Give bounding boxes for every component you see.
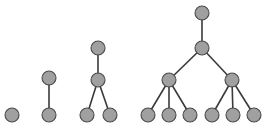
tree-1-nodes <box>5 108 19 122</box>
tree-node <box>42 108 56 122</box>
tree-3-nodes <box>80 41 117 122</box>
tree-node-circle <box>247 108 261 122</box>
tree-node <box>42 71 56 85</box>
tree-node <box>183 108 197 122</box>
tree-node <box>91 73 105 87</box>
tree-node-circle <box>162 73 176 87</box>
tree-node-circle <box>226 108 240 122</box>
tree-node <box>103 108 117 122</box>
tree-node-circle <box>5 108 19 122</box>
tree-4-nodes <box>141 6 261 122</box>
tree-node-circle <box>91 41 105 55</box>
tree-node <box>5 108 19 122</box>
tree-node-circle <box>141 108 155 122</box>
tree-node-circle <box>225 73 239 87</box>
tree-3 <box>80 41 117 122</box>
tree-node <box>162 108 176 122</box>
tree-node-circle <box>42 71 56 85</box>
tree-node-circle <box>162 108 176 122</box>
tree-node <box>91 41 105 55</box>
tree-diagram-figure <box>0 0 265 131</box>
tree-node-circle <box>205 108 219 122</box>
tree-node-circle <box>195 6 209 20</box>
tree-node <box>195 6 209 20</box>
tree-4 <box>141 6 261 122</box>
tree-node <box>225 73 239 87</box>
tree-2 <box>42 71 56 122</box>
tree-node-circle <box>195 41 209 55</box>
tree-node <box>226 108 240 122</box>
tree-node-circle <box>42 108 56 122</box>
tree-diagram-canvas <box>0 0 265 131</box>
tree-node <box>247 108 261 122</box>
tree-node-circle <box>183 108 197 122</box>
tree-node-circle <box>80 108 94 122</box>
tree-node <box>80 108 94 122</box>
tree-node <box>195 41 209 55</box>
tree-node <box>205 108 219 122</box>
tree-node-circle <box>91 73 105 87</box>
tree-node <box>141 108 155 122</box>
tree-4-edges <box>148 13 254 115</box>
tree-node <box>162 73 176 87</box>
tree-node-circle <box>103 108 117 122</box>
tree-1 <box>5 108 19 122</box>
